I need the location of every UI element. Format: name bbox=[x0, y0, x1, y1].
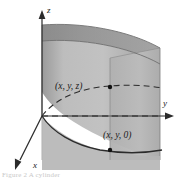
point-label-xyz: (x, y, z) bbox=[55, 82, 82, 92]
axis-x bbox=[15, 116, 42, 170]
axis-label-x: x bbox=[33, 161, 37, 170]
axis-label-y: y bbox=[163, 99, 167, 108]
figure-caption: Figure 2 A cylinder bbox=[2, 172, 60, 179]
axis-label-z: z bbox=[47, 6, 51, 15]
point-marker-upper bbox=[108, 85, 112, 89]
surface-right-panel bbox=[110, 48, 160, 160]
cylinder-diagram-svg bbox=[0, 0, 183, 180]
point-marker-lower bbox=[108, 148, 112, 152]
figure-container: z y x (x, y, z) (x, y, 0) Figure 2 A cyl… bbox=[0, 0, 183, 180]
point-label-xy0: (x, y, 0) bbox=[103, 131, 132, 141]
